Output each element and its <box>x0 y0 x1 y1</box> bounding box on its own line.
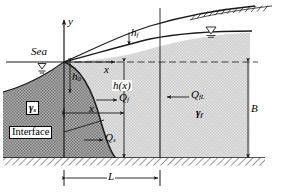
Qs-label: Qs <box>105 132 116 144</box>
x-dimension-label: x <box>89 103 94 114</box>
B-dimension-label: B <box>251 103 258 114</box>
diagram-svg <box>0 0 284 196</box>
sea-water-level-icon <box>38 64 46 74</box>
hf-label: hf <box>131 27 138 39</box>
gamma-s-label: γs <box>26 101 39 115</box>
bedrock-hatching <box>3 158 265 166</box>
hx-label: h(x) <box>112 80 132 91</box>
ground-surface-hatching <box>190 6 272 21</box>
L-dimension-label: L <box>107 171 115 182</box>
diagram-canvas: Sea y x h0 h(x) hf x Qf QfL Qs γs γf Int… <box>0 0 284 196</box>
interface-label: Interface <box>9 126 52 139</box>
QfL-label: QfL <box>191 89 205 101</box>
gamma-f-label: γf <box>196 107 203 119</box>
Qf-label: Qf <box>119 92 129 104</box>
h0-label: h0 <box>72 71 81 83</box>
y-axis-label: y <box>68 16 73 27</box>
sea-label: Sea <box>30 46 48 57</box>
x-axis-label: x <box>104 64 109 75</box>
